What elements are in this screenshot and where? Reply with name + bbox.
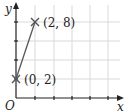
y-axis-label: y [5,3,12,15]
point-b-label: (2, 8) [43,17,75,29]
x-axis-label: x [117,101,124,112]
point-a-label: (0, 2) [24,74,56,86]
line-segment [16,22,35,79]
origin-label: O [5,100,15,112]
